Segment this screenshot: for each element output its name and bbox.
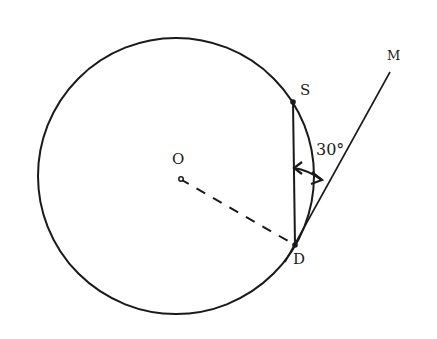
chord-sd [293, 102, 295, 245]
circle [38, 38, 314, 314]
point-d [292, 242, 298, 248]
geometry-diagram: O S D M 30° [0, 0, 437, 339]
label-d: D [293, 250, 305, 268]
angle-arc-arrow-icon [294, 162, 322, 184]
label-m: M [387, 48, 400, 63]
point-s [290, 99, 296, 105]
label-s: S [300, 81, 310, 99]
label-angle: 30° [316, 140, 344, 159]
tangent-dm [285, 72, 390, 262]
center-point [179, 177, 183, 181]
label-o: O [172, 150, 184, 168]
radius-od-dashed [180, 179, 295, 245]
